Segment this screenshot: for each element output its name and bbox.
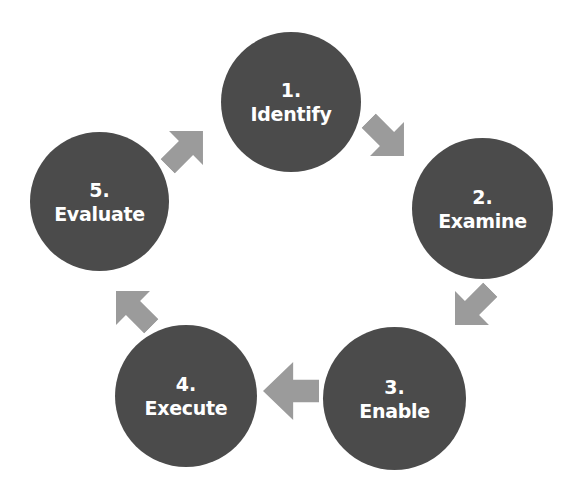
step-number: 2.	[472, 185, 492, 209]
step-label: Examine	[438, 209, 527, 233]
step-label: Evaluate	[54, 202, 145, 226]
step-number: 3.	[384, 375, 404, 399]
step-number: 1.	[281, 78, 301, 102]
step-number: 5.	[89, 178, 109, 202]
step-number: 4.	[176, 372, 196, 396]
step-2-examine: 2. Examine	[412, 138, 553, 279]
step-label: Enable	[359, 399, 430, 423]
arrow-left-icon	[263, 362, 319, 420]
step-label: Identify	[251, 102, 332, 126]
arrow-down-left-icon	[435, 271, 509, 345]
step-4-execute: 4. Execute	[115, 325, 257, 467]
arrow-down-right-icon	[350, 102, 424, 176]
step-5-evaluate: 5. Evaluate	[30, 132, 169, 271]
step-1-identify: 1. Identify	[221, 32, 361, 172]
step-label: Execute	[145, 396, 228, 420]
step-3-enable: 3. Enable	[323, 327, 466, 470]
